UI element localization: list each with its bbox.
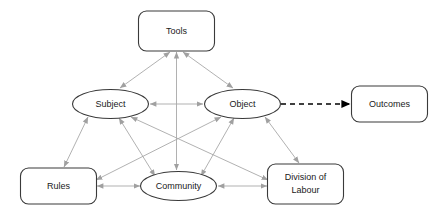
node-outcomes-label: Outcomes [369,99,411,109]
node-community[interactable]: Community [141,172,217,201]
node-division-of-labour-label-line1: Division of [285,172,327,182]
edge-object-rules [96,117,221,180]
edge-tools-object [183,52,233,88]
edge-tools-subject [120,52,170,88]
node-object[interactable]: Object [205,90,281,119]
node-community-label: Community [156,181,202,191]
edge-subject-community [119,118,155,176]
edge-subject-rules [64,117,88,167]
node-rules-label: Rules [47,181,71,191]
node-division-of-labour-label-line2: Labour [291,185,319,195]
node-rules[interactable]: Rules [21,168,97,204]
node-division-of-labour-shape [268,164,344,204]
diagram-canvas: Tools Subject Object Outcomes Rules [0,0,443,217]
node-layer: Tools Subject Object Outcomes Rules [21,11,428,204]
node-tools-label: Tools [166,26,188,36]
node-division-of-labour[interactable]: Division of Labour [268,164,344,204]
activity-system-diagram: Tools Subject Object Outcomes Rules [0,0,443,217]
node-object-label: Object [229,99,256,109]
edge-object-community [201,118,234,176]
node-subject[interactable]: Subject [73,90,149,119]
node-outcomes[interactable]: Outcomes [352,86,428,122]
edge-object-division [265,117,299,163]
node-tools[interactable]: Tools [139,11,215,51]
node-subject-label: Subject [95,99,126,109]
